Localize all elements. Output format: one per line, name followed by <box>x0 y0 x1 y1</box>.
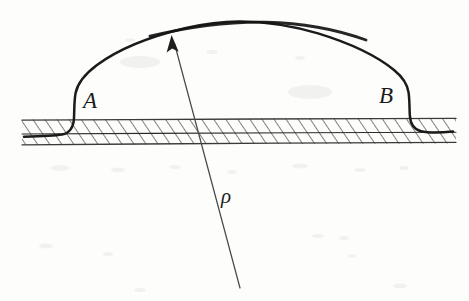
label-point-a: A <box>81 88 98 113</box>
paper-background <box>0 0 469 301</box>
label-radius-rho: ρ <box>220 184 231 208</box>
diagram-canvas: A B ρ <box>0 0 469 301</box>
label-point-b: B <box>379 83 393 108</box>
figure-container: A B ρ <box>0 0 469 301</box>
